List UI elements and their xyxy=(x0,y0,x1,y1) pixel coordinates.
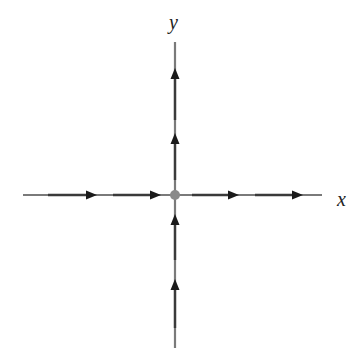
arrow-up-icon xyxy=(171,68,180,79)
arrow-right-icon xyxy=(150,191,161,200)
arrow-right-icon xyxy=(86,191,97,200)
phase-portrait-diagram: y x xyxy=(0,0,363,353)
arrow-up-icon xyxy=(171,279,180,290)
arrow-up-icon xyxy=(171,133,180,144)
origin-fixed-point xyxy=(170,190,180,200)
arrow-up-icon xyxy=(171,214,180,225)
x-axis-label: x xyxy=(336,188,346,210)
arrow-right-icon xyxy=(292,191,303,200)
arrow-right-icon xyxy=(228,191,239,200)
y-axis-label: y xyxy=(167,11,178,34)
